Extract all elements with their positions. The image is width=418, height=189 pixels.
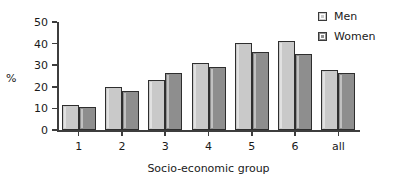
y-axis-line bbox=[57, 22, 59, 131]
x-tick-label: 2 bbox=[102, 141, 142, 152]
bar-men-1 bbox=[62, 105, 79, 130]
y-tick-mark bbox=[52, 86, 57, 88]
y-tick-mark bbox=[52, 21, 57, 23]
y-tick-label: 40 bbox=[26, 39, 48, 50]
y-tick-label: 50 bbox=[26, 17, 48, 28]
bar-women-4 bbox=[209, 67, 226, 130]
x-tick-label: 1 bbox=[59, 141, 99, 152]
x-axis-title: Socio-economic group bbox=[57, 163, 360, 174]
x-tick-label: all bbox=[318, 141, 358, 152]
x-tick-label: 6 bbox=[275, 141, 315, 152]
x-tick-mark bbox=[121, 131, 123, 136]
bar-women-3 bbox=[165, 73, 182, 130]
bar-men-all bbox=[321, 70, 338, 130]
x-tick-mark bbox=[164, 131, 166, 136]
y-tick-label: 0 bbox=[26, 125, 48, 136]
bar-women-all bbox=[338, 73, 355, 130]
bar-men-2 bbox=[105, 87, 122, 130]
plot-area: 50403020100 123456all % Socio-economic g… bbox=[0, 0, 418, 189]
y-tick-label: 20 bbox=[26, 82, 48, 93]
y-tick-label: 10 bbox=[26, 103, 48, 114]
x-tick-mark bbox=[251, 131, 253, 136]
x-tick-mark bbox=[208, 131, 210, 136]
bar-women-2 bbox=[122, 91, 139, 130]
bar-men-3 bbox=[148, 80, 165, 130]
y-tick-mark bbox=[52, 43, 57, 45]
y-tick-mark bbox=[52, 64, 57, 66]
y-tick-label: 30 bbox=[26, 60, 48, 71]
x-tick-label: 3 bbox=[145, 141, 185, 152]
x-tick-label: 5 bbox=[232, 141, 272, 152]
y-axis-title: % bbox=[6, 73, 16, 84]
bar-men-6 bbox=[278, 41, 295, 130]
bar-women-1 bbox=[79, 107, 96, 130]
y-axis-tick-labels: 50403020100 bbox=[24, 0, 48, 189]
bar-men-5 bbox=[235, 43, 252, 130]
x-tick-label: 4 bbox=[189, 141, 229, 152]
bar-chart-figure: Men Women 50403020100 123456all % Socio-… bbox=[0, 0, 418, 189]
bar-women-6 bbox=[295, 54, 312, 130]
bar-women-5 bbox=[252, 52, 269, 130]
x-tick-mark bbox=[338, 131, 340, 136]
x-tick-mark bbox=[294, 131, 296, 136]
x-tick-mark bbox=[78, 131, 80, 136]
bar-men-4 bbox=[192, 63, 209, 130]
y-tick-mark bbox=[52, 108, 57, 110]
y-tick-mark bbox=[52, 129, 57, 131]
